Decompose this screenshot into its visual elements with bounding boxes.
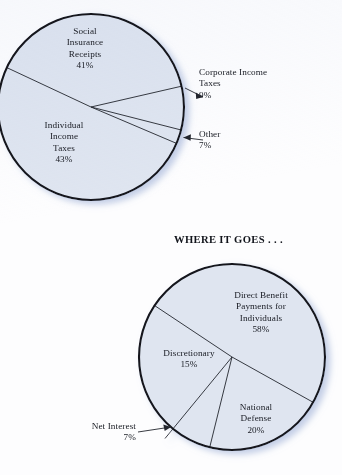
label-percent: 43% xyxy=(10,154,118,165)
label-percent: 7% xyxy=(44,432,136,443)
label-line-3: Receipts xyxy=(69,49,101,59)
figure-page: Social Insurance Receipts 41% Individual… xyxy=(0,0,342,475)
pie-2-label-direct-benefit-payments: Direct Benefit Payments for Individuals … xyxy=(206,290,316,336)
label-line-1: National xyxy=(240,402,272,412)
label-line-2: Taxes xyxy=(199,78,221,88)
label-line-1: Direct Benefit xyxy=(234,290,288,300)
label-percent: 15% xyxy=(140,359,238,370)
pie-2-label-discretionary: Discretionary 15% xyxy=(140,348,238,371)
label-line-2: Income xyxy=(50,131,78,141)
pie-1-label-social-insurance: Social Insurance Receipts 41% xyxy=(30,26,140,72)
pie-2-label-national-defense: National Defense 20% xyxy=(213,402,299,436)
label-line-1: Corporate Income xyxy=(199,67,267,77)
label-line-3: Individuals xyxy=(240,313,282,323)
label-percent: 9% xyxy=(199,90,339,101)
label-line-1: Social xyxy=(73,26,97,36)
label-line-2: Defense xyxy=(241,413,272,423)
label-line-2: Payments for xyxy=(236,301,286,311)
label-line-1: Discretionary xyxy=(163,348,214,358)
label-line-1: Other xyxy=(199,129,220,139)
pie-1-label-individual-income: Individual Income Taxes 43% xyxy=(10,120,118,166)
label-percent: 7% xyxy=(199,140,319,151)
pie-2-label-net-interest: Net Interest 7% xyxy=(44,421,136,444)
label-percent: 41% xyxy=(30,60,140,71)
label-line-3: Taxes xyxy=(53,143,75,153)
pie-1-label-corporate-income-taxes: Corporate Income Taxes 9% xyxy=(199,67,339,101)
label-percent: 58% xyxy=(206,324,316,335)
label-percent: 20% xyxy=(213,425,299,436)
pie-1-leader-arrow-other xyxy=(184,134,191,141)
label-line-2: Insurance xyxy=(67,37,104,47)
pie-1-label-other: Other 7% xyxy=(199,129,319,152)
label-line-1: Individual xyxy=(45,120,84,130)
label-line-1: Net Interest xyxy=(92,421,136,431)
